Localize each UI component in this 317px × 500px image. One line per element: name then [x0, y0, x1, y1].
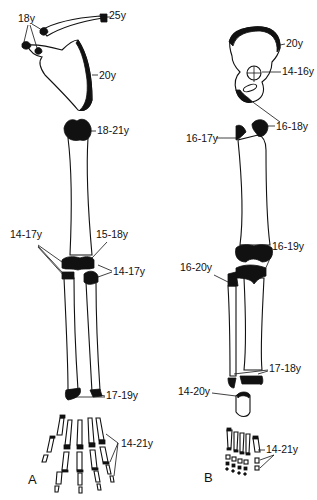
hip-bone	[229, 27, 280, 103]
panel-label-b: B	[204, 470, 213, 485]
fibula-proximal-epiphysis	[228, 272, 238, 286]
toe-phalanges	[226, 455, 259, 475]
label-ankle-age: 17-18y	[269, 362, 302, 374]
label-hand-age: 14-21y	[121, 437, 154, 449]
hand	[42, 415, 114, 493]
skeletal-ossification-diagram: 25y 18y 20y 18-21y 14-17y 15-18y	[0, 0, 317, 500]
label-humerus-proximal-age: 18-21y	[97, 124, 130, 136]
label-foot-age: 14-21y	[266, 443, 299, 455]
label-trochanter-age: 16-17y	[186, 132, 219, 144]
humerus-distal-epiphysis	[62, 257, 94, 270]
humerus-proximal-epiphysis	[64, 119, 91, 140]
panel-label-a: A	[28, 472, 37, 487]
clavicle-acromial-end	[40, 28, 48, 36]
ulna-distal-epiphysis	[65, 388, 80, 400]
label-forearm-proximal-age: 14-17y	[113, 265, 146, 277]
clavicle	[40, 14, 107, 36]
forearm	[62, 271, 102, 400]
label-acetabulum-age: 14-16y	[282, 65, 315, 77]
calcaneus	[236, 392, 250, 417]
tibia-distal-epiphysis	[240, 376, 263, 385]
label-epicondyle-age: 15-18y	[96, 228, 129, 240]
leg	[228, 265, 266, 388]
fibula	[228, 286, 236, 376]
radius-proximal-epiphysis	[84, 271, 98, 284]
label-femoral-head-age: 16-18y	[276, 120, 309, 132]
scapula	[22, 40, 92, 111]
panel-b: 20y 14-16y 16-18y 16-17y 16-19y 16-20y	[178, 27, 315, 485]
label-iliac-age: 20y	[286, 37, 304, 49]
label-scapula-age: 20y	[99, 69, 117, 81]
label-knee-age: 16-19y	[272, 240, 305, 252]
femoral-head-epiphysis	[252, 120, 268, 137]
metacarpals	[57, 415, 105, 449]
label-humerus-distal-age: 14-17y	[10, 228, 43, 240]
label-acromion-age: 18y	[18, 12, 36, 24]
label-forearm-distal-age: 17-19y	[106, 389, 139, 401]
coracoid-epiphysis	[35, 48, 42, 55]
femur	[235, 120, 272, 262]
label-fibula-proximal-age: 16-20y	[180, 261, 213, 273]
panel-a: 25y 18y 20y 18-21y 14-17y 15-18y	[10, 9, 154, 493]
fibula-distal-epiphysis	[228, 378, 236, 388]
ulna	[64, 278, 78, 390]
humerus	[62, 119, 94, 270]
greater-trochanter-epiphysis	[236, 125, 246, 140]
tibia	[244, 278, 264, 370]
clavicle-epiphysis	[100, 14, 107, 22]
metatarsals	[227, 428, 260, 455]
acromion-epiphysis	[22, 42, 31, 50]
ulna-proximal-epiphysis	[62, 272, 74, 279]
foot	[226, 428, 260, 475]
label-clavicle-age: 25y	[109, 9, 127, 21]
label-calcaneus-age: 14-20y	[178, 385, 211, 397]
femur-distal-epiphysis	[235, 245, 272, 262]
radius-distal-epiphysis	[90, 389, 102, 397]
radius	[86, 282, 100, 392]
